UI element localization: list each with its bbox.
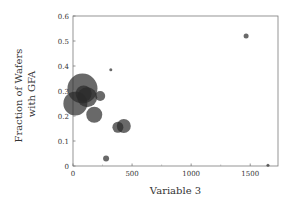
chart-canvas: 050010001500 00.10.20.30.40.50.6 Variabl… bbox=[0, 0, 294, 205]
data-point bbox=[109, 68, 112, 71]
y-axis-title-line-2: with GFA bbox=[26, 70, 37, 117]
data-point bbox=[266, 164, 269, 167]
data-points bbox=[63, 34, 269, 167]
y-tick-label: 0.2 bbox=[58, 113, 69, 121]
data-point bbox=[76, 86, 92, 102]
bubble-chart: 050010001500 00.10.20.30.40.50.6 Variabl… bbox=[0, 0, 294, 205]
x-tick-label: 500 bbox=[125, 170, 138, 178]
plot-frame bbox=[73, 16, 278, 166]
y-tick-label: 0.6 bbox=[58, 13, 70, 21]
y-axis-title-line-1: Fraction of Wafers bbox=[13, 49, 24, 143]
data-point bbox=[103, 156, 109, 162]
x-axis-title: Variable 3 bbox=[149, 185, 201, 196]
data-point bbox=[117, 119, 131, 133]
x-tick-label: 0 bbox=[71, 170, 75, 178]
plot-border bbox=[73, 16, 278, 166]
data-point bbox=[86, 107, 102, 123]
data-point bbox=[244, 34, 249, 39]
y-axis-title: Fraction of Wafers with GFA bbox=[13, 45, 37, 142]
y-tick-label: 0 bbox=[65, 163, 69, 171]
x-tick-label: 1500 bbox=[241, 170, 259, 178]
y-tick-label: 0.5 bbox=[58, 38, 69, 46]
y-tick-label: 0.4 bbox=[58, 63, 70, 71]
x-tick-label: 1000 bbox=[182, 170, 200, 178]
y-tick-label: 0.1 bbox=[58, 138, 69, 146]
y-tick-label: 0.3 bbox=[58, 88, 69, 96]
data-point bbox=[95, 91, 105, 101]
